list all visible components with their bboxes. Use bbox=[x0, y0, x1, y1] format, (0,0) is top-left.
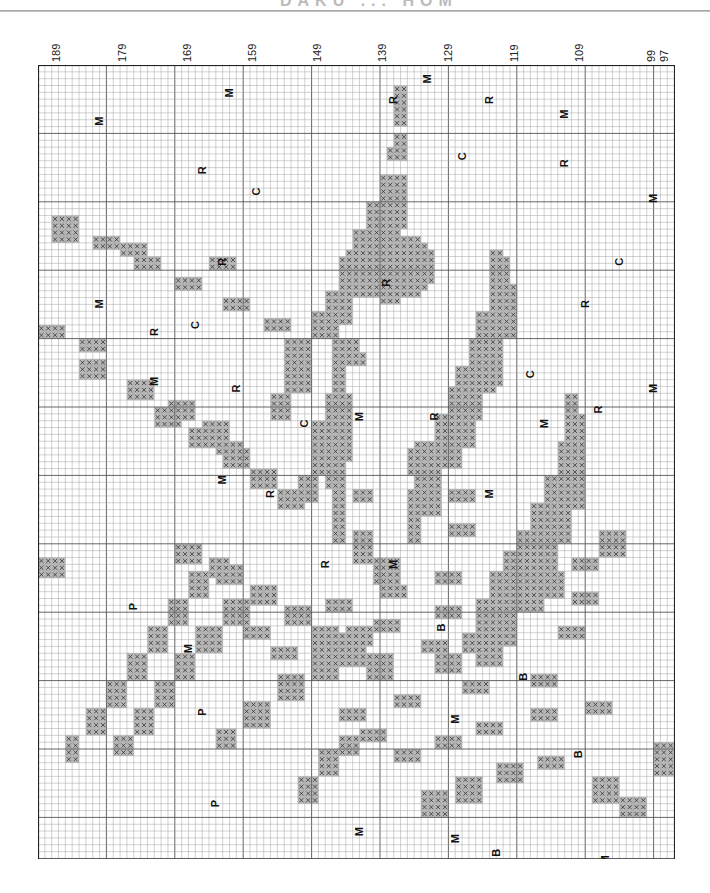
symbol-label-p: P bbox=[209, 800, 221, 807]
symbol-label-m: M bbox=[449, 834, 461, 843]
symbol-label-r: R bbox=[387, 96, 399, 104]
column-label-99: 99 bbox=[645, 50, 657, 62]
symbol-label-m: M bbox=[387, 560, 399, 569]
symbol-label-p: P bbox=[196, 708, 208, 715]
symbol-label-m: M bbox=[353, 827, 365, 836]
header-rule bbox=[0, 10, 710, 12]
symbol-label-r: R bbox=[148, 328, 160, 336]
symbol-label-m: M bbox=[647, 384, 659, 393]
symbol-label-r: R bbox=[319, 560, 331, 568]
column-label-97: 97 bbox=[658, 50, 670, 62]
symbol-label-r: R bbox=[579, 300, 591, 308]
symbol-label-b: B bbox=[490, 849, 502, 857]
symbol-label-r: R bbox=[483, 96, 495, 104]
symbol-label-m: M bbox=[483, 489, 495, 498]
symbol-label-m: M bbox=[93, 117, 105, 126]
symbol-label-r: R bbox=[380, 279, 392, 287]
symbol-label-r: R bbox=[428, 413, 440, 421]
symbol-label-c: C bbox=[613, 258, 625, 266]
column-label-179: 179 bbox=[116, 44, 128, 62]
symbol-label-m: M bbox=[223, 88, 235, 97]
symbol-label-m: M bbox=[421, 74, 433, 83]
symbol-label-p: P bbox=[127, 603, 139, 610]
symbol-label-r: R bbox=[558, 159, 570, 167]
symbol-label-r: R bbox=[264, 490, 276, 498]
column-label-169: 169 bbox=[181, 44, 193, 62]
symbol-label-m: M bbox=[148, 377, 160, 386]
column-label-139: 139 bbox=[376, 44, 388, 62]
symbol-label-m: M bbox=[647, 194, 659, 203]
symbol-label-r: R bbox=[196, 166, 208, 174]
symbol-label-b: B bbox=[517, 673, 529, 681]
symbol-label-r: R bbox=[230, 384, 242, 392]
symbol-label-c: C bbox=[189, 321, 201, 329]
symbol-label-r: R bbox=[592, 406, 604, 414]
column-label-109: 109 bbox=[573, 44, 585, 62]
column-label-129: 129 bbox=[442, 44, 454, 62]
cross-stitch-chart: MMMMRRRCCRMRMCRRRCMRCRMCMRMMRMRMPBMBPMBP… bbox=[38, 65, 675, 859]
column-label-149: 149 bbox=[311, 44, 323, 62]
symbol-label-r: R bbox=[216, 258, 228, 266]
symbol-label-m: M bbox=[353, 412, 365, 421]
symbol-label-c: C bbox=[524, 370, 536, 378]
symbol-label-m: M bbox=[182, 644, 194, 653]
symbol-label-c: C bbox=[250, 187, 262, 195]
symbol-label-c: C bbox=[298, 420, 310, 428]
symbol-label-c: C bbox=[456, 152, 468, 160]
symbol-label-m: M bbox=[93, 299, 105, 308]
symbol-label-m: M bbox=[558, 109, 570, 118]
column-label-159: 159 bbox=[246, 44, 258, 62]
symbol-label-b: B bbox=[572, 750, 584, 758]
symbol-label-b: B bbox=[435, 624, 447, 632]
column-label-119: 119 bbox=[508, 44, 520, 62]
page-title-partial: DAKU ... HOM bbox=[280, 0, 458, 10]
symbol-label-m: M bbox=[538, 419, 550, 428]
symbol-label-m: M bbox=[216, 475, 228, 484]
symbol-label-m: M bbox=[449, 715, 461, 724]
column-label-189: 189 bbox=[50, 44, 62, 62]
symbol-label-m: M bbox=[599, 855, 611, 859]
